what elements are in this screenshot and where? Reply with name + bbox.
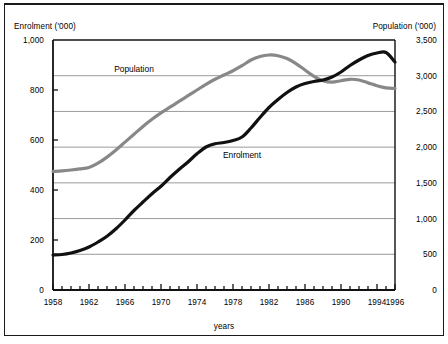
svg-text:1,000: 1,000: [23, 36, 44, 45]
svg-text:1978: 1978: [224, 298, 243, 307]
chart-figure: Enrolment ('000) Population ('000) years…: [0, 0, 448, 344]
y-tick-labels-right: 05001,0001,5002,0002,5003,0003,500: [416, 36, 437, 295]
svg-text:3,000: 3,000: [416, 72, 437, 81]
population-series-label: Population: [114, 64, 154, 74]
svg-text:2,500: 2,500: [416, 107, 437, 116]
svg-text:0: 0: [39, 286, 44, 295]
svg-text:1982: 1982: [260, 298, 279, 307]
svg-text:1958: 1958: [44, 298, 63, 307]
x-tick-labels: 1958196219661970197419781982198619901994…: [44, 298, 405, 307]
svg-text:2,000: 2,000: [416, 143, 437, 152]
svg-text:3,500: 3,500: [416, 36, 437, 45]
svg-text:1986: 1986: [296, 298, 315, 307]
svg-text:1996: 1996: [386, 298, 405, 307]
svg-text:1990: 1990: [332, 298, 351, 307]
enrolment-series-label: Enrolment: [223, 150, 262, 160]
svg-text:1962: 1962: [80, 298, 99, 307]
svg-text:1970: 1970: [152, 298, 171, 307]
chart-plot: 02004006008001,000 05001,0001,5002,0002,…: [0, 0, 448, 344]
svg-text:0: 0: [432, 286, 437, 295]
svg-text:1,000: 1,000: [416, 215, 437, 224]
plot-frame: [53, 40, 395, 290]
svg-text:200: 200: [30, 236, 44, 245]
svg-text:1,500: 1,500: [416, 179, 437, 188]
svg-text:1974: 1974: [188, 298, 207, 307]
svg-text:1966: 1966: [116, 298, 135, 307]
svg-text:500: 500: [423, 250, 437, 259]
svg-text:400: 400: [30, 186, 44, 195]
y-tick-labels-left: 02004006008001,000: [23, 36, 44, 295]
svg-text:600: 600: [30, 136, 44, 145]
svg-text:800: 800: [30, 86, 44, 95]
svg-text:1994: 1994: [368, 298, 387, 307]
gridlines: [53, 76, 395, 255]
